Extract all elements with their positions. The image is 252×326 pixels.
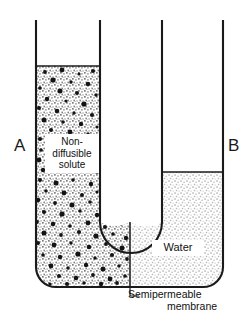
solute-liquid-region [35,66,130,287]
membrane-label-line-2: membrane [128,300,250,312]
water-stipple-fill [130,172,223,287]
arm-label-b: B [228,136,240,156]
osmosis-u-tube-figure: A B Non- diffusible solute Water Semiper… [0,0,252,326]
membrane-label: Semipermeable membrane [128,288,250,312]
water-label: Water [152,240,204,256]
solute-label-line-1: Non- [46,136,98,148]
tube-inner-wall [100,20,162,253]
u-tube-drawing [0,0,252,326]
solute-label: Non- diffusible solute [45,134,99,173]
arm-label-a: A [14,136,26,156]
water-liquid-region [130,172,223,287]
membrane-label-line-1: Semipermeable [128,288,202,300]
solute-label-line-2: diffusible [46,148,98,160]
solute-stipple-fill [36,66,130,287]
solute-label-line-3: solute [46,159,98,171]
